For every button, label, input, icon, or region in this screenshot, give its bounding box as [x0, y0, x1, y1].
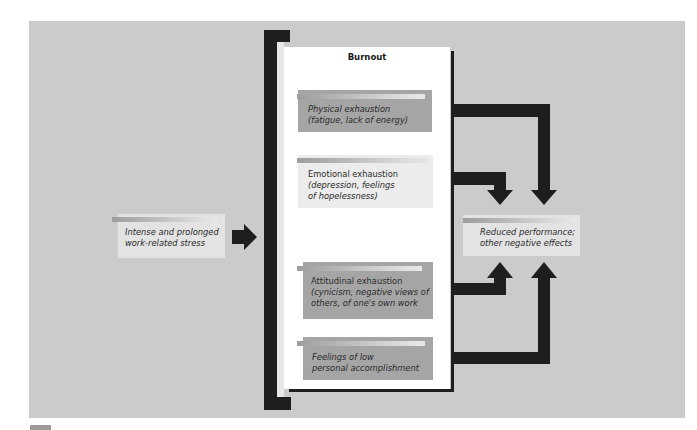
arrow-down-icon	[452, 172, 513, 205]
connector-arrows	[0, 0, 697, 430]
arrow-up-icon	[452, 262, 513, 295]
